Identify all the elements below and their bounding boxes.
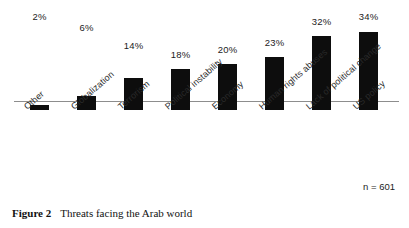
bar-value-label: 2% <box>16 11 63 22</box>
bar-value-label: 32% <box>298 16 345 27</box>
figure-caption-text: Threats facing the Arab world <box>60 207 192 219</box>
bar-chart-plot-area: 2% 6% 14% 18% 20% 23% 32% <box>0 0 409 110</box>
figure-caption: Figure 2Threats facing the Arab world <box>12 207 192 219</box>
bar-value-label: 23% <box>251 37 298 48</box>
bar-value-label: 6% <box>63 22 110 33</box>
bar-value-label: 14% <box>110 40 157 51</box>
bar-value-label: 34% <box>345 11 392 22</box>
figure-container: 2% 6% 14% 18% 20% 23% 32% <box>0 0 409 228</box>
figure-number-label: Figure 2 <box>12 207 51 219</box>
bar-value-label: 20% <box>204 44 251 55</box>
bar-value-label: 18% <box>157 49 204 60</box>
sample-size-note: n = 601 <box>363 181 395 192</box>
